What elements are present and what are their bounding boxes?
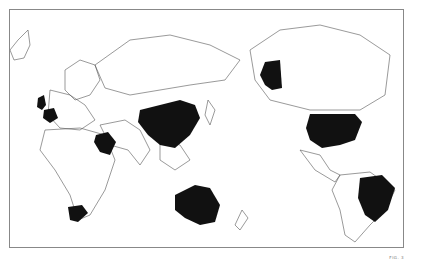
alaska-shape <box>260 60 282 90</box>
australia-shape <box>175 185 220 225</box>
france-shape <box>43 108 58 123</box>
uk-shape <box>37 95 46 110</box>
world-map <box>9 9 404 248</box>
saudi-shape <box>94 132 116 155</box>
greenland-outline <box>10 30 30 60</box>
map-svg <box>10 10 403 247</box>
south-africa-shape <box>68 205 88 222</box>
figure-caption: FIG. 3 <box>389 255 404 260</box>
brazil-shape <box>358 175 395 222</box>
usa-shape <box>306 114 362 148</box>
china-shape <box>138 100 200 148</box>
